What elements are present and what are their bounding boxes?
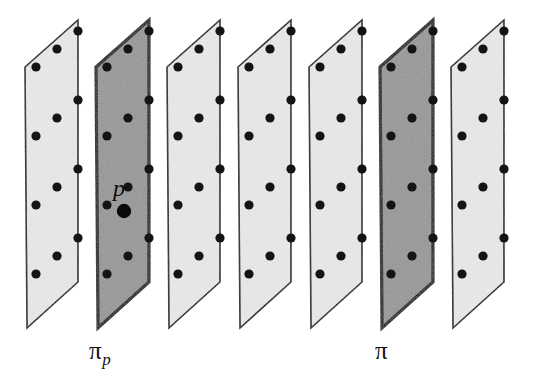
plane-point — [386, 62, 395, 71]
planes-diagram — [0, 0, 546, 376]
plane-point — [428, 233, 437, 242]
plane-point — [315, 62, 324, 71]
plane-point — [286, 164, 295, 173]
plane-point — [123, 44, 132, 53]
pi-glyph: π — [375, 337, 388, 364]
plane-point — [215, 95, 224, 104]
plane-point — [123, 251, 132, 260]
plane-3 — [167, 20, 225, 328]
plane-point — [31, 269, 40, 278]
plane-point — [173, 62, 182, 71]
plane-point — [336, 113, 345, 122]
plane-point — [499, 164, 508, 173]
plane-point — [102, 200, 111, 209]
plane-point — [499, 233, 508, 242]
point-label-p: p — [113, 176, 125, 200]
plane-point — [315, 131, 324, 140]
plane-label-pi-p: πp — [89, 338, 111, 368]
plane-point — [173, 200, 182, 209]
plane-point — [73, 26, 82, 35]
plane-point — [265, 44, 274, 53]
pi-glyph: π — [89, 337, 102, 364]
plane-point — [357, 233, 366, 242]
plane-6-shaded — [380, 20, 438, 328]
plane-point — [215, 233, 224, 242]
plane-point — [265, 113, 274, 122]
plane-point — [457, 269, 466, 278]
plane-point — [457, 131, 466, 140]
plane-point — [144, 233, 153, 242]
plane-point — [457, 62, 466, 71]
plane-point — [73, 164, 82, 173]
plane-point — [173, 269, 182, 278]
plane-point — [428, 95, 437, 104]
plane-point — [315, 269, 324, 278]
plane-point — [144, 26, 153, 35]
figure-canvas: πp π p — [0, 0, 546, 376]
plane-point — [478, 44, 487, 53]
plane-point — [478, 113, 487, 122]
plane-point — [386, 131, 395, 140]
plane-point — [499, 26, 508, 35]
plane-point — [407, 113, 416, 122]
plane-point — [31, 200, 40, 209]
plane-point — [144, 164, 153, 173]
plane-point — [102, 131, 111, 140]
plane-point — [407, 182, 416, 191]
plane-point — [286, 233, 295, 242]
plane-point — [194, 251, 203, 260]
plane-point — [52, 113, 61, 122]
plane-point — [499, 95, 508, 104]
pi-subscript-p: p — [102, 350, 111, 369]
plane-point — [286, 95, 295, 104]
plane-5 — [309, 20, 367, 328]
plane-point — [102, 269, 111, 278]
plane-point — [52, 44, 61, 53]
plane-point — [336, 251, 345, 260]
plane-point — [194, 182, 203, 191]
plane-point — [478, 182, 487, 191]
plane-point — [102, 62, 111, 71]
plane-point — [123, 113, 132, 122]
plane-point — [244, 62, 253, 71]
plane-2-shaded — [96, 20, 154, 328]
plane-point — [357, 26, 366, 35]
plane-point — [457, 200, 466, 209]
plane-point — [173, 131, 182, 140]
plane-point — [52, 182, 61, 191]
plane-point — [428, 164, 437, 173]
plane-point — [407, 44, 416, 53]
plane-point — [336, 182, 345, 191]
plane-point — [73, 233, 82, 242]
plane-point — [386, 269, 395, 278]
plane-point — [357, 164, 366, 173]
plane-point — [73, 95, 82, 104]
plane-point — [357, 95, 366, 104]
plane-point — [244, 269, 253, 278]
plane-point — [286, 26, 295, 35]
plane-point — [31, 131, 40, 140]
plane-point — [31, 62, 40, 71]
plane-point — [52, 251, 61, 260]
plane-point — [336, 44, 345, 53]
plane-point — [244, 131, 253, 140]
plane-point — [478, 251, 487, 260]
point-p-marker — [117, 204, 131, 218]
plane-point — [215, 26, 224, 35]
plane-point — [428, 26, 437, 35]
plane-1 — [25, 20, 83, 328]
plane-point — [315, 200, 324, 209]
plane-label-pi: π — [375, 338, 388, 363]
plane-point — [194, 113, 203, 122]
plane-7 — [451, 20, 509, 328]
plane-point — [194, 44, 203, 53]
plane-point — [244, 200, 253, 209]
plane-point — [265, 182, 274, 191]
plane-point — [386, 200, 395, 209]
plane-point — [265, 251, 274, 260]
plane-4 — [238, 20, 296, 328]
plane-point — [407, 251, 416, 260]
plane-point — [215, 164, 224, 173]
plane-point — [144, 95, 153, 104]
